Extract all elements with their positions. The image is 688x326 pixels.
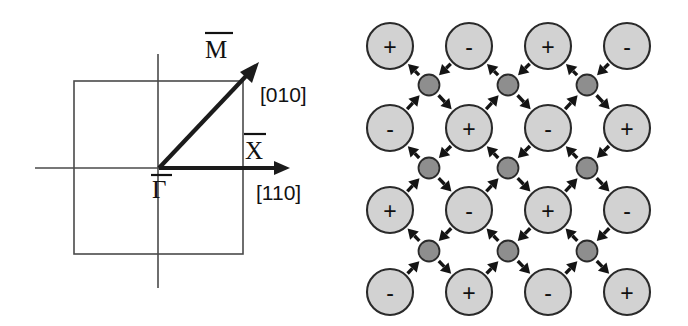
- displacement-arrow-2-1-down-left: [487, 261, 499, 273]
- arrow-shaft: [439, 178, 445, 184]
- large-ion-1-2: -: [525, 105, 571, 151]
- figure-root: Γ X M [010] [110] +-+--+-++-+--+-+: [0, 0, 688, 326]
- large-ion-3-0: -: [367, 269, 413, 315]
- ion-charge-sign: -: [465, 198, 473, 224]
- arrow-shaft: [604, 64, 609, 68]
- displacement-arrow-2-2-down-left: [566, 261, 578, 273]
- arrow-shaft: [407, 186, 412, 192]
- arrow-shaft: [573, 153, 577, 158]
- small-ion-0-1: [498, 75, 519, 96]
- large-ion-3-3: +: [604, 269, 650, 315]
- arrow-shaft: [487, 268, 492, 273]
- small-ion-1-0: [419, 158, 440, 179]
- ion-charge-sign: -: [544, 280, 552, 306]
- ion-charge-sign: +: [383, 198, 396, 224]
- displacement-arrow-2-0-down-left: [408, 261, 420, 273]
- arrow-shaft: [604, 146, 609, 151]
- arrow-shaft: [525, 146, 530, 151]
- label-x-bar: X: [244, 134, 266, 164]
- small-ion-1-2: [577, 158, 598, 179]
- displacement-arrow-0-1-up-left: [487, 64, 498, 75]
- ion-charge-sign: -: [623, 198, 631, 224]
- ion-charge-sign: +: [462, 116, 475, 142]
- small-ion-2-1: [498, 241, 519, 262]
- displacement-arrow-0-2-down-right: [597, 95, 610, 109]
- displacement-arrow-0-0-down-right: [439, 95, 452, 109]
- displacement-arrow-2-0-up-left: [408, 228, 420, 240]
- ion-charge-sign: +: [541, 34, 554, 60]
- arrow-shaft: [518, 95, 524, 102]
- label-m-text: M: [205, 36, 227, 63]
- arrow-shaft: [414, 236, 419, 241]
- arrow-shaft: [518, 261, 523, 267]
- arrow-shaft: [597, 261, 602, 267]
- displacement-arrow-1-2-up-left: [566, 146, 577, 158]
- displacement-arrow-0-1-up-right: [518, 64, 530, 75]
- small-ion-2-2: [577, 241, 598, 262]
- displacement-arrow-1-1-down-right: [518, 178, 531, 191]
- arrow-shaft: [486, 103, 492, 109]
- arrow-shaft: [525, 64, 530, 68]
- large-ion-0-1: -: [446, 23, 492, 69]
- ion-charge-sign: -: [386, 280, 394, 306]
- displacement-arrow-0-2-down-left: [565, 95, 577, 109]
- label-x-text: X: [245, 137, 263, 164]
- displacement-arrow-2-1-up-left: [487, 228, 499, 240]
- displacement-arrow-1-0-down-left: [407, 178, 419, 191]
- large-ion-3-2: -: [525, 269, 571, 315]
- arrow-shaft: [572, 236, 577, 241]
- displacement-arrow-0-1-down-right: [518, 95, 531, 109]
- displacement-arrow-2-0-down-right: [439, 261, 451, 274]
- large-ion-2-0: +: [367, 187, 413, 233]
- arrow-shaft: [493, 236, 498, 241]
- arrow-shaft: [494, 71, 498, 75]
- arrow-shaft: [525, 228, 530, 234]
- label-direction-110: [110]: [256, 181, 301, 204]
- small-ion-0-0: [419, 75, 440, 96]
- displacement-arrow-1-2-down-left: [565, 178, 577, 191]
- displacement-arrow-1-1-up-left: [487, 146, 498, 158]
- displacement-arrow-1-0-down-right: [439, 178, 452, 191]
- arrow-shaft: [407, 103, 413, 109]
- ion-charge-sign: -: [623, 34, 631, 60]
- ion-charge-sign: -: [465, 34, 473, 60]
- small-ion-0-2: [577, 75, 598, 96]
- displacement-arrow-0-2-up-left: [566, 64, 577, 75]
- gamma-to-m-arrow: [159, 62, 259, 168]
- arrow-shaft: [565, 103, 571, 109]
- displacement-arrow-2-2-up-left: [566, 228, 578, 240]
- displacement-arrow-2-1-up-right: [518, 228, 530, 241]
- displacement-arrow-0-0-up-right: [439, 64, 451, 75]
- displacement-arrow-0-0-up-left: [408, 64, 419, 75]
- label-direction-010: [010]: [260, 83, 307, 106]
- displacement-arrow-2-0-up-right: [439, 228, 451, 241]
- arrow-shaft: [415, 153, 419, 158]
- label-gamma-bar: Γ: [151, 175, 172, 203]
- arrow-shaft: [446, 228, 451, 234]
- ion-charge-sign: +: [620, 280, 633, 306]
- large-ion-1-3: +: [604, 105, 650, 151]
- arrow-shaft: [439, 95, 445, 102]
- displacement-arrow-1-2-down-right: [597, 178, 610, 191]
- arrow-shaft: [446, 64, 451, 68]
- large-ion-2-3: -: [604, 187, 650, 233]
- large-ion-1-1: +: [446, 105, 492, 151]
- displacement-arrow-0-1-down-left: [486, 95, 498, 109]
- small-ion-2-0: [419, 241, 440, 262]
- label-gamma-text: Γ: [152, 176, 166, 203]
- ion-charge-sign: -: [544, 116, 552, 142]
- surface-lattice-panel: +-+--+-++-+--+-+: [344, 0, 688, 326]
- small-ion-1-1: [498, 158, 519, 179]
- displacement-arrow-2-2-up-right: [597, 228, 609, 241]
- displacement-arrow-1-0-up-left: [408, 146, 419, 158]
- ion-charge-sign: +: [620, 116, 633, 142]
- arrow-shaft: [408, 268, 413, 273]
- displacement-arrow-1-1-up-right: [518, 146, 530, 158]
- arrow-shaft: [573, 71, 577, 75]
- arrow-shaft: [439, 261, 444, 267]
- displacement-arrow-1-2-up-right: [597, 146, 609, 158]
- ion-charge-sign: +: [541, 198, 554, 224]
- ion-charge-sign: +: [462, 280, 475, 306]
- arrow-shaft: [518, 178, 524, 184]
- ion-charge-sign: -: [386, 116, 394, 142]
